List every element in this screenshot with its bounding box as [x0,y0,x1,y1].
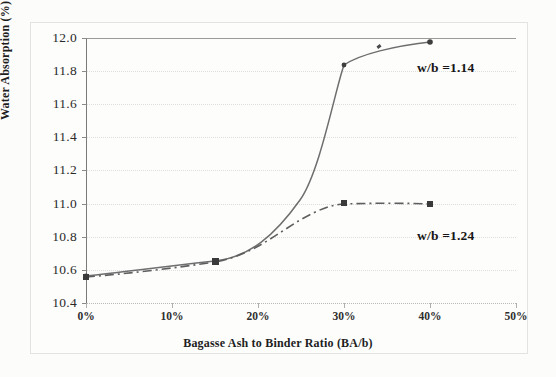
series-line-0 [86,42,430,276]
series-marker-1 [427,201,433,207]
data-curves [0,0,556,377]
series-marker-1 [83,274,89,280]
series-marker-1 [212,258,219,265]
series-marker-0 [427,39,433,45]
series-label-upper: w/b =1.14 [417,60,475,76]
series-marker-0 [342,63,347,68]
series-label-lower: w/b =1.24 [417,228,475,244]
series-line-1 [86,203,430,277]
figure-canvas: 12.0 11.8 11.6 11.4 11.2 11.0 10.8 10.6 … [0,0,556,377]
series-marker-1 [341,200,347,206]
